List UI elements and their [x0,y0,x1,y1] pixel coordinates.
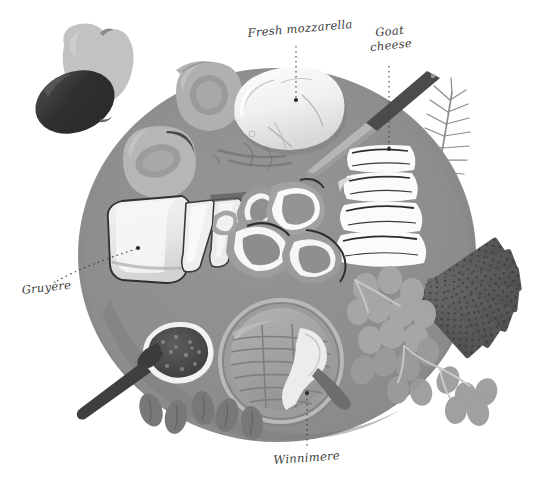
label-goat-cheese: Goat cheese [362,21,419,55]
peach-half-upper [176,61,242,131]
illustration-canvas: Fresh mozzarella Goat cheese Gruyère Win… [0,0,541,499]
goat-cheese-slices [337,145,427,267]
cheese-board-illustration [0,0,541,499]
peach-half-lower [123,126,196,199]
mozzarella-ball [234,66,347,155]
